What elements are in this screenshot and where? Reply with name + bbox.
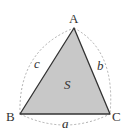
side-label-a: a xyxy=(62,116,69,131)
diagram-svg: A B C c b a S xyxy=(0,0,126,134)
triangle-diagram: A B C c b a S xyxy=(0,0,126,134)
side-label-c: c xyxy=(34,56,40,71)
vertex-label-b: B xyxy=(6,109,15,124)
vertex-label-c: C xyxy=(112,109,121,124)
side-label-b: b xyxy=(97,58,104,73)
vertex-label-a: A xyxy=(69,11,79,26)
area-label-s: S xyxy=(64,77,71,92)
